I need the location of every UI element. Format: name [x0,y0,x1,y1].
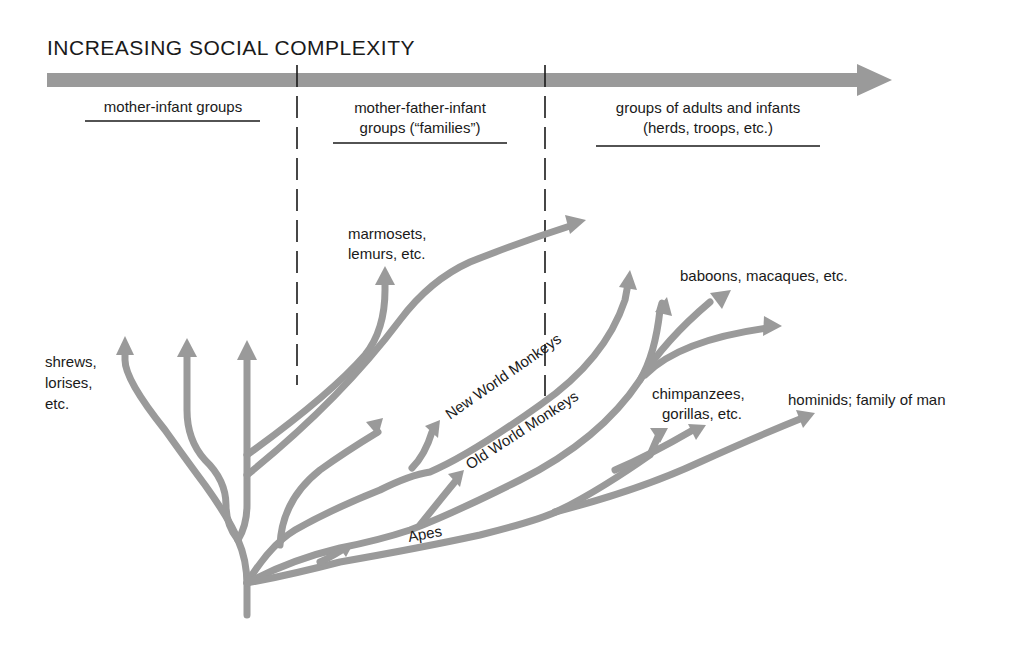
label-hominids: hominids; family of man [788,391,946,408]
label-shrews: shrews, lorises, etc. [45,353,97,412]
branch-shrews-3 [238,355,247,540]
svg-text:etc.: etc. [45,395,69,412]
branch-apes-chimps-2 [615,430,693,470]
svg-text:marmosets,: marmosets, [348,225,426,242]
svg-text:chimpanzees,: chimpanzees, [652,385,745,402]
arrowhead [237,340,257,360]
category-label: (herds, troops, etc.) [643,119,773,136]
branch-new-world-side-2 [412,432,432,468]
primate-social-evolution-diagram: INCREASING SOCIAL COMPLEXITY mother-infa… [0,0,1017,652]
category-label: mother-infant groups [104,98,242,115]
svg-text:shrews,: shrews, [45,353,97,370]
svg-text:gorillas, etc.: gorillas, etc. [662,405,742,422]
category-mother-infant: mother-infant groups [85,98,260,121]
category-label: mother-father-infant [354,99,487,116]
arrowhead [763,316,782,336]
category-label: groups of adults and infants [616,99,800,116]
arrowhead [177,338,197,357]
category-families: mother-father-infant groups (“families”) [333,99,507,143]
arrowhead [710,290,731,309]
category-label: groups (“families”) [360,119,481,136]
svg-text:lorises,: lorises, [45,374,93,391]
label-baboons: baboons, macaques, etc. [680,267,848,284]
category-groups-of-adults: groups of adults and infants (herds, tro… [596,99,820,146]
label-marmosets: marmosets, lemurs, etc. [348,225,426,262]
arrowhead [375,266,395,285]
svg-text:lemurs, etc.: lemurs, etc. [348,245,426,262]
trunk [238,540,247,615]
label-chimps: chimpanzees, gorillas, etc. [652,385,745,422]
branch-shrews-2 [187,352,238,540]
diagram-title: INCREASING SOCIAL COMPLEXITY [47,36,415,59]
arrowhead [619,270,637,290]
social-complexity-arrow [47,64,892,96]
arrowhead [116,336,134,355]
arrowhead [565,215,586,234]
branch-shrews-1 [125,348,238,540]
